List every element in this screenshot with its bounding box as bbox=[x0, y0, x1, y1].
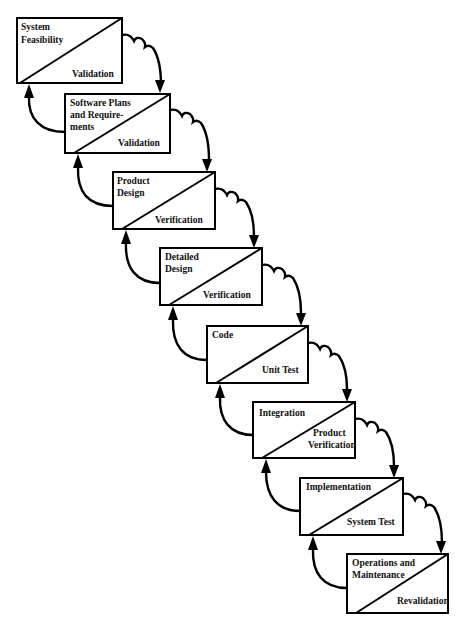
svg-text:Validation: Validation bbox=[72, 69, 115, 79]
svg-text:Code: Code bbox=[212, 330, 233, 340]
svg-text:Detailed: Detailed bbox=[165, 252, 199, 262]
svg-text:Verification: Verification bbox=[308, 440, 356, 450]
forward-arrow-icon bbox=[122, 35, 165, 93]
svg-text:Operations and: Operations and bbox=[352, 558, 416, 568]
stage-top-label: Implementation bbox=[306, 482, 372, 492]
svg-text:Design: Design bbox=[165, 264, 193, 274]
forward-arrow-icon bbox=[215, 189, 259, 248]
stage-code: Code Unit Test bbox=[207, 326, 308, 383]
stage-bottom-label: Verification bbox=[308, 440, 356, 450]
feedback-arrow-icon bbox=[73, 154, 113, 206]
svg-text:Verification: Verification bbox=[155, 215, 203, 225]
svg-text:Validation: Validation bbox=[118, 138, 161, 148]
stage-top-label: Maintenance bbox=[352, 570, 405, 580]
stage-bottom-label: Verification bbox=[155, 215, 203, 225]
forward-arrow-icon bbox=[403, 494, 446, 554]
stage-bottom-label: Verification bbox=[203, 290, 251, 300]
forward-arrow-icon bbox=[355, 419, 399, 478]
forward-arrow-icon bbox=[308, 343, 352, 402]
stage-integration: Integration Product Verification bbox=[253, 402, 356, 458]
svg-text:Unit Test: Unit Test bbox=[262, 365, 300, 375]
stage-product-design: Product Design Verification bbox=[113, 172, 215, 229]
forward-arrow-icon bbox=[262, 265, 306, 326]
svg-text:Software Plans: Software Plans bbox=[70, 98, 131, 108]
feedback-arrow-icon bbox=[215, 384, 253, 435]
stage-top-label: Feasibility bbox=[21, 35, 63, 45]
svg-text:Verification: Verification bbox=[203, 290, 251, 300]
stage-top-label: ments bbox=[70, 122, 95, 132]
feedback-arrow-icon bbox=[261, 459, 300, 511]
svg-text:ments: ments bbox=[70, 122, 95, 132]
svg-text:System: System bbox=[21, 22, 50, 32]
stage-bottom-label: Revalidation bbox=[397, 596, 449, 606]
svg-text:Maintenance: Maintenance bbox=[352, 570, 405, 580]
stage-top-label: Design bbox=[117, 188, 145, 198]
svg-text:Product: Product bbox=[117, 176, 150, 186]
svg-text:Revalidation: Revalidation bbox=[397, 596, 449, 606]
stage-top-label: Product bbox=[117, 176, 150, 186]
stage-top-label: Detailed bbox=[165, 252, 199, 262]
stage-top-label: System bbox=[21, 22, 50, 32]
stage-implementation: Implementation System Test bbox=[300, 478, 403, 535]
stage-operations-maintenance: Operations and Maintenance Revalidation bbox=[347, 554, 449, 613]
feedback-arrow-icon bbox=[121, 230, 160, 283]
feedback-arrow-icon bbox=[168, 306, 207, 360]
stage-system-feasibility: System Feasibility Validation bbox=[17, 18, 122, 83]
stage-bottom-label: Product bbox=[313, 428, 346, 438]
waterfall-diagram: System Feasibility Validation Software P… bbox=[0, 0, 466, 625]
stage-bottom-label: Validation bbox=[72, 69, 115, 79]
stage-top-label: Operations and bbox=[352, 558, 416, 568]
stage-top-label: Design bbox=[165, 264, 193, 274]
stage-top-label: and Require- bbox=[70, 110, 123, 120]
svg-text:Integration: Integration bbox=[259, 408, 306, 418]
svg-text:Design: Design bbox=[117, 188, 145, 198]
stage-top-label: Integration bbox=[259, 408, 306, 418]
stage-top-label: Software Plans bbox=[70, 98, 131, 108]
forward-arrow-icon bbox=[170, 110, 212, 172]
stage-bottom-label: Unit Test bbox=[262, 365, 300, 375]
stage-detailed-design: Detailed Design Verification bbox=[160, 248, 262, 305]
svg-text:Product: Product bbox=[313, 428, 346, 438]
svg-text:and Require-: and Require- bbox=[70, 110, 123, 120]
stage-bottom-label: Validation bbox=[118, 138, 161, 148]
stage-bottom-label: System Test bbox=[347, 517, 396, 527]
svg-text:Implementation: Implementation bbox=[306, 482, 372, 492]
feedback-arrow-icon bbox=[308, 536, 347, 588]
svg-text:Feasibility: Feasibility bbox=[21, 35, 63, 45]
svg-text:System Test: System Test bbox=[347, 517, 396, 527]
stage-software-plans: Software Plans and Require- ments Valida… bbox=[65, 94, 170, 153]
feedback-arrow-icon bbox=[24, 84, 65, 132]
stage-top-label: Code bbox=[212, 330, 233, 340]
